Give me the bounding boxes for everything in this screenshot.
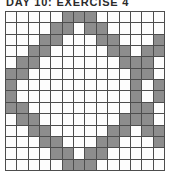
grid-cell[interactable] bbox=[97, 12, 108, 23]
grid-cell[interactable] bbox=[6, 137, 17, 148]
grid-cell[interactable] bbox=[120, 69, 131, 80]
grid-cell[interactable] bbox=[131, 57, 142, 68]
grid-cell[interactable] bbox=[131, 103, 142, 114]
grid-cell[interactable] bbox=[29, 46, 40, 57]
grid-cell[interactable] bbox=[6, 35, 17, 46]
grid-cell[interactable] bbox=[74, 57, 85, 68]
grid-cell[interactable] bbox=[6, 23, 17, 34]
grid-cell[interactable] bbox=[29, 35, 40, 46]
grid-cell[interactable] bbox=[108, 160, 119, 171]
grid-cell[interactable] bbox=[97, 114, 108, 125]
grid-cell[interactable] bbox=[6, 57, 17, 68]
grid-cell[interactable] bbox=[74, 69, 85, 80]
grid-cell[interactable] bbox=[97, 35, 108, 46]
grid-cell[interactable] bbox=[17, 12, 28, 23]
grid-cell[interactable] bbox=[108, 23, 119, 34]
grid-cell[interactable] bbox=[120, 57, 131, 68]
grid-cell[interactable] bbox=[108, 69, 119, 80]
grid-cell[interactable] bbox=[63, 103, 74, 114]
grid-cell[interactable] bbox=[154, 23, 165, 34]
grid-cell[interactable] bbox=[97, 80, 108, 91]
grid-cell[interactable] bbox=[120, 23, 131, 34]
grid-cell[interactable] bbox=[6, 103, 17, 114]
grid-cell[interactable] bbox=[29, 91, 40, 102]
grid-cell[interactable] bbox=[120, 126, 131, 137]
grid-cell[interactable] bbox=[142, 80, 153, 91]
grid-cell[interactable] bbox=[131, 12, 142, 23]
grid-cell[interactable] bbox=[85, 114, 96, 125]
grid-cell[interactable] bbox=[85, 148, 96, 159]
grid-cell[interactable] bbox=[108, 114, 119, 125]
grid-cell[interactable] bbox=[74, 35, 85, 46]
grid-cell[interactable] bbox=[29, 148, 40, 159]
grid-cell[interactable] bbox=[142, 148, 153, 159]
grid-cell[interactable] bbox=[29, 160, 40, 171]
grid-cell[interactable] bbox=[51, 160, 62, 171]
grid-cell[interactable] bbox=[108, 46, 119, 57]
grid-cell[interactable] bbox=[131, 35, 142, 46]
grid-cell[interactable] bbox=[131, 91, 142, 102]
grid-cell[interactable] bbox=[40, 160, 51, 171]
grid-cell[interactable] bbox=[120, 160, 131, 171]
grid-cell[interactable] bbox=[17, 57, 28, 68]
grid-cell[interactable] bbox=[108, 80, 119, 91]
grid-cell[interactable] bbox=[142, 23, 153, 34]
grid-cell[interactable] bbox=[40, 126, 51, 137]
grid-cell[interactable] bbox=[63, 137, 74, 148]
grid-cell[interactable] bbox=[120, 35, 131, 46]
grid-cell[interactable] bbox=[17, 137, 28, 148]
grid-cell[interactable] bbox=[17, 46, 28, 57]
grid-cell[interactable] bbox=[40, 23, 51, 34]
grid-cell[interactable] bbox=[154, 35, 165, 46]
grid-cell[interactable] bbox=[85, 160, 96, 171]
grid-cell[interactable] bbox=[63, 114, 74, 125]
grid-cell[interactable] bbox=[40, 69, 51, 80]
grid-cell[interactable] bbox=[74, 148, 85, 159]
grid-cell[interactable] bbox=[51, 69, 62, 80]
grid-cell[interactable] bbox=[108, 35, 119, 46]
grid-cell[interactable] bbox=[51, 23, 62, 34]
grid-cell[interactable] bbox=[29, 80, 40, 91]
grid-cell[interactable] bbox=[63, 80, 74, 91]
grid-cell[interactable] bbox=[85, 46, 96, 57]
grid-cell[interactable] bbox=[85, 103, 96, 114]
grid-cell[interactable] bbox=[29, 103, 40, 114]
grid-cell[interactable] bbox=[85, 23, 96, 34]
grid-cell[interactable] bbox=[74, 91, 85, 102]
grid-cell[interactable] bbox=[29, 57, 40, 68]
grid-cell[interactable] bbox=[74, 103, 85, 114]
grid-cell[interactable] bbox=[120, 80, 131, 91]
grid-cell[interactable] bbox=[154, 114, 165, 125]
grid-cell[interactable] bbox=[97, 160, 108, 171]
grid-cell[interactable] bbox=[40, 114, 51, 125]
grid-cell[interactable] bbox=[29, 126, 40, 137]
grid-cell[interactable] bbox=[6, 46, 17, 57]
grid-cell[interactable] bbox=[40, 91, 51, 102]
grid-cell[interactable] bbox=[63, 23, 74, 34]
grid-cell[interactable] bbox=[85, 137, 96, 148]
grid-cell[interactable] bbox=[142, 137, 153, 148]
grid-cell[interactable] bbox=[120, 46, 131, 57]
grid-cell[interactable] bbox=[97, 148, 108, 159]
grid-cell[interactable] bbox=[17, 148, 28, 159]
grid-cell[interactable] bbox=[142, 12, 153, 23]
grid-cell[interactable] bbox=[85, 80, 96, 91]
grid-cell[interactable] bbox=[154, 103, 165, 114]
grid-cell[interactable] bbox=[74, 126, 85, 137]
grid-cell[interactable] bbox=[51, 35, 62, 46]
grid-cell[interactable] bbox=[108, 148, 119, 159]
grid-cell[interactable] bbox=[108, 103, 119, 114]
grid-cell[interactable] bbox=[6, 69, 17, 80]
grid-cell[interactable] bbox=[97, 69, 108, 80]
grid-cell[interactable] bbox=[17, 69, 28, 80]
grid-cell[interactable] bbox=[120, 148, 131, 159]
grid-cell[interactable] bbox=[154, 91, 165, 102]
grid-cell[interactable] bbox=[97, 126, 108, 137]
grid-cell[interactable] bbox=[85, 35, 96, 46]
grid-cell[interactable] bbox=[154, 46, 165, 57]
grid-cell[interactable] bbox=[154, 148, 165, 159]
grid-cell[interactable] bbox=[97, 91, 108, 102]
grid-cell[interactable] bbox=[17, 91, 28, 102]
grid-cell[interactable] bbox=[40, 57, 51, 68]
grid-cell[interactable] bbox=[142, 103, 153, 114]
